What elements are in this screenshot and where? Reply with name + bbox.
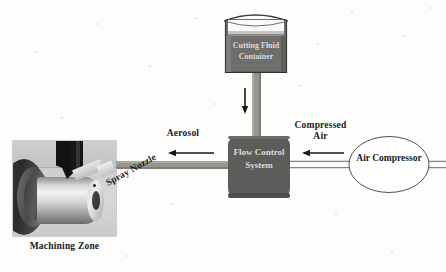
aerosol-pipe <box>96 161 234 169</box>
air-compressor-shape <box>349 137 429 193</box>
aerosol-flow-arrow-left <box>168 150 214 156</box>
machining-zone-label: Machining Zone <box>14 241 115 252</box>
compressed-air-flow-arrow-left <box>302 150 344 156</box>
aerosol-flow-label: Aerosol <box>152 128 214 139</box>
machining-zone-photo <box>13 141 116 236</box>
cutting-tool-highlight <box>76 141 80 169</box>
fluid-flow-arrow-down <box>242 88 248 114</box>
flow-control-system-label: Flow Control System <box>229 146 289 172</box>
fluid-feed-pipe <box>252 72 261 140</box>
workpiece-bore <box>92 191 100 210</box>
compressed-air-pipe <box>290 161 352 168</box>
air-compressor-label: Air Compressor <box>352 152 426 164</box>
workpiece-center-mark <box>93 184 96 187</box>
compressed-air-flow-label: Compressed Air <box>287 120 354 141</box>
cutting-fluid-container-label: Cutting Fluid Container <box>229 41 283 63</box>
